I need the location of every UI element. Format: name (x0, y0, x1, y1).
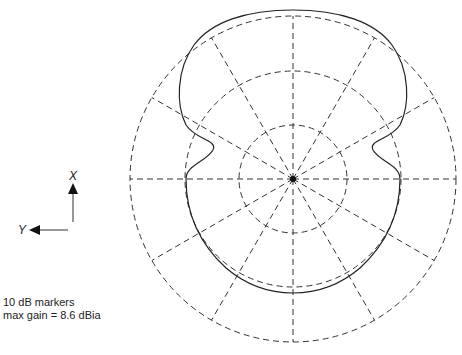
spoke-30deg (293, 98, 434, 180)
spoke-210deg (152, 179, 293, 261)
legend-markers-text: 10 dB markers (3, 296, 101, 309)
axis-indicator: X Y (18, 169, 78, 237)
y-axis-label: Y (18, 223, 27, 237)
center-marker (290, 176, 296, 182)
spoke-60deg (293, 38, 375, 179)
spoke-330deg (293, 179, 434, 261)
spoke-240deg (212, 179, 294, 320)
y-axis-arrowhead-icon (29, 225, 40, 235)
plot-legend: 10 dB markers max gain = 8.6 dBia (3, 296, 101, 322)
spoke-150deg (152, 98, 293, 180)
legend-max-gain-text: max gain = 8.6 dBia (3, 309, 101, 322)
spoke-300deg (293, 179, 375, 320)
x-axis-label: X (68, 169, 78, 183)
x-axis-arrowhead-icon (68, 183, 78, 194)
spoke-120deg (212, 38, 294, 179)
